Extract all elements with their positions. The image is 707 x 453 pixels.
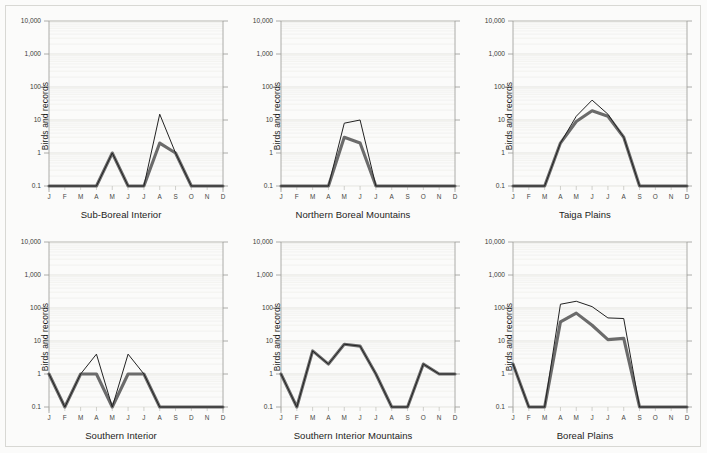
y-tick-label: 1,000 <box>488 271 505 278</box>
x-tick-label: J <box>358 193 361 200</box>
y-tick-label: 1,000 <box>256 271 273 278</box>
x-tick-label: D <box>221 414 226 421</box>
x-tick-label: S <box>637 193 641 200</box>
x-tick-label: J <box>126 193 129 200</box>
x-tick-label: M <box>310 414 315 421</box>
x-tick-label: J <box>279 414 282 421</box>
x-tick-label: A <box>622 414 627 421</box>
x-tick-label: O <box>653 193 658 200</box>
x-tick-label: A <box>390 414 395 421</box>
x-tick-label: O <box>189 193 194 200</box>
x-tick-label: J <box>374 193 377 200</box>
data-line-thin <box>49 354 223 407</box>
x-tick-label: M <box>110 193 115 200</box>
chart-panel: 10,0001,0001001010.1JFMAMJJASONDBirds an… <box>5 5 237 226</box>
x-tick-label: M <box>110 414 115 421</box>
chart-panel: 10,0001,0001001010.1JFMAMJJASONDBirds an… <box>237 5 469 226</box>
x-tick-label: A <box>94 414 99 421</box>
x-tick-label: N <box>205 414 210 421</box>
x-tick-label: D <box>685 193 690 200</box>
y-tick-label: 1 <box>501 370 505 377</box>
panel-title: Southern Interior <box>5 430 237 441</box>
x-tick-label: N <box>437 414 442 421</box>
x-tick-label: A <box>326 193 331 200</box>
y-axis-label: Birds and records <box>504 302 514 370</box>
x-tick-label: D <box>685 414 690 421</box>
y-tick-label: 10,000 <box>485 17 506 24</box>
x-tick-label: J <box>142 193 145 200</box>
x-tick-label: O <box>421 414 426 421</box>
data-line-thick <box>513 313 687 407</box>
x-tick-label: J <box>279 193 282 200</box>
figure-canvas: 10,0001,0001001010.1JFMAMJJASONDBirds an… <box>0 0 707 453</box>
panel-title: Boreal Plains <box>469 430 701 441</box>
x-tick-label: J <box>374 414 377 421</box>
x-tick-label: J <box>590 193 593 200</box>
y-tick-label: 1 <box>501 149 505 156</box>
y-tick-label: 0.1 <box>32 182 41 189</box>
x-tick-label: F <box>63 414 67 421</box>
x-tick-label: A <box>558 193 563 200</box>
x-tick-label: S <box>637 414 641 421</box>
x-tick-label: M <box>342 414 347 421</box>
chart-panel: 10,0001,0001001010.1JFMAMJJASONDBirds an… <box>469 5 701 226</box>
x-tick-label: J <box>606 414 609 421</box>
x-tick-label: M <box>542 414 547 421</box>
panel-title: Northern Boreal Mountains <box>237 209 469 220</box>
x-tick-label: A <box>622 193 627 200</box>
chart-panel: 10,0001,0001001010.1JFMAMJJASONDBirds an… <box>237 226 469 447</box>
x-tick-label: F <box>527 414 531 421</box>
x-tick-label: S <box>173 414 177 421</box>
x-tick-label: A <box>558 414 563 421</box>
chart-panel: 10,0001,0001001010.1JFMAMJJASDNDBirds an… <box>5 226 237 447</box>
x-tick-label: J <box>126 414 129 421</box>
x-tick-label: D <box>221 193 226 200</box>
x-tick-label: M <box>542 193 547 200</box>
x-tick-label: F <box>295 193 299 200</box>
panel-title: Sub-Boreal Interior <box>5 209 237 220</box>
x-tick-label: A <box>390 193 395 200</box>
y-axis-label: Birds and records <box>272 302 282 370</box>
y-axis-label: Birds and records <box>272 81 282 149</box>
x-tick-label: M <box>78 193 83 200</box>
y-tick-label: 0.1 <box>496 182 505 189</box>
x-tick-label: F <box>63 193 67 200</box>
y-tick-label: 1 <box>37 149 41 156</box>
x-tick-label: M <box>78 414 83 421</box>
x-tick-label: A <box>94 193 99 200</box>
x-tick-label: N <box>669 414 674 421</box>
y-tick-label: 1,000 <box>256 50 273 57</box>
data-line-thick <box>281 137 455 186</box>
y-tick-label: 10,000 <box>21 238 42 245</box>
x-tick-label: J <box>142 414 145 421</box>
x-tick-label: M <box>574 414 579 421</box>
y-tick-label: 0.1 <box>264 403 273 410</box>
data-line-thick <box>49 143 223 186</box>
y-tick-label: 1 <box>269 370 273 377</box>
x-tick-label: A <box>326 414 331 421</box>
x-tick-label: N <box>669 193 674 200</box>
x-tick-label: A <box>158 414 163 421</box>
x-tick-label: S <box>173 193 177 200</box>
y-tick-label: 10,000 <box>253 238 274 245</box>
x-tick-label: J <box>47 193 50 200</box>
x-tick-label: D <box>453 414 458 421</box>
x-tick-label: J <box>511 193 514 200</box>
y-axis-label: Birds and records <box>40 302 50 370</box>
x-tick-label: N <box>437 193 442 200</box>
panel-grid: 10,0001,0001001010.1JFMAMJJASONDBirds an… <box>5 5 701 447</box>
x-tick-label: J <box>590 414 593 421</box>
x-tick-label: M <box>574 193 579 200</box>
y-tick-label: 1 <box>37 370 41 377</box>
y-tick-label: 0.1 <box>496 403 505 410</box>
x-tick-label: S <box>405 414 409 421</box>
x-tick-label: J <box>358 414 361 421</box>
y-tick-label: 1,000 <box>24 271 41 278</box>
x-tick-label: F <box>527 193 531 200</box>
x-tick-label: F <box>295 414 299 421</box>
data-line-thick <box>513 111 687 186</box>
y-tick-label: 10,000 <box>253 17 274 24</box>
x-tick-label: D <box>453 193 458 200</box>
panel-title: Southern Interior Mountains <box>237 430 469 441</box>
x-tick-label: M <box>310 193 315 200</box>
